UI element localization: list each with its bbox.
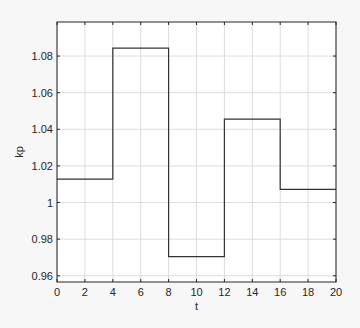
x-tick-label: 12 — [218, 286, 230, 298]
y-tick-label: 1.08 — [32, 50, 53, 62]
x-tick-label: 18 — [302, 286, 314, 298]
y-axis-label: kp — [13, 146, 25, 158]
chart-figure: 02468101214161820 0.960.9811.021.041.061… — [0, 0, 360, 328]
x-tick-label: 6 — [138, 286, 144, 298]
x-tick-label: 2 — [82, 286, 88, 298]
x-tick-label: 16 — [274, 286, 286, 298]
x-tick-label: 4 — [110, 286, 116, 298]
y-tick-label: 1 — [47, 197, 53, 209]
y-tick-label: 1.02 — [32, 160, 53, 172]
y-tick-label: 0.96 — [32, 270, 53, 282]
x-tick-label: 8 — [166, 286, 172, 298]
x-tick-label: 0 — [54, 286, 60, 298]
y-tick-label: 0.98 — [32, 233, 53, 245]
x-axis-label: t — [195, 300, 198, 312]
x-tick-label: 10 — [190, 286, 202, 298]
x-tick-label: 14 — [246, 286, 258, 298]
y-tick-label: 1.06 — [32, 87, 53, 99]
x-tick-label: 20 — [330, 286, 342, 298]
y-tick-label: 1.04 — [32, 123, 53, 135]
